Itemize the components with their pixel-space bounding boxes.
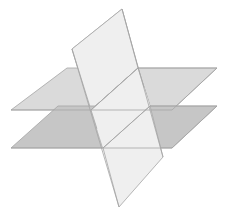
planes-diagram: [0, 0, 228, 220]
